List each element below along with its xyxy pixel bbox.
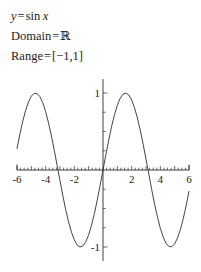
x-tick-label: -2 — [70, 173, 79, 185]
range-line: Range=[−1,1] — [11, 46, 196, 66]
range-value: [−1,1] — [52, 49, 83, 63]
figure-card: y=sin x Domain=ℝ Range=[−1,1] -6-4-2246-… — [0, 0, 201, 272]
equation-line: y=sin x — [11, 6, 196, 26]
x-tick-label: 2 — [129, 173, 135, 185]
x-tick-label: -4 — [41, 173, 51, 185]
equation-equals: = — [17, 9, 26, 23]
range-equals: = — [43, 49, 52, 63]
x-tick-label: 6 — [186, 173, 192, 185]
domain-line: Domain=ℝ — [11, 26, 196, 46]
y-tick-label: 1 — [95, 87, 101, 99]
sine-plot-svg: -6-4-2246-11 — [0, 78, 201, 272]
domain-value: ℝ — [60, 28, 70, 43]
sine-graph: -6-4-2246-11 — [0, 78, 201, 272]
x-tick-label: 4 — [158, 173, 164, 185]
domain-label: Domain — [11, 29, 51, 43]
domain-equals: = — [51, 29, 60, 43]
y-tick-label: -1 — [91, 241, 100, 253]
range-label: Range — [11, 49, 43, 63]
equation-argument: x — [43, 9, 49, 23]
equation-function: sin — [26, 9, 41, 23]
equation-lhs: y — [11, 9, 17, 23]
function-description: y=sin x Domain=ℝ Range=[−1,1] — [11, 6, 196, 66]
x-tick-label: -6 — [12, 173, 22, 185]
